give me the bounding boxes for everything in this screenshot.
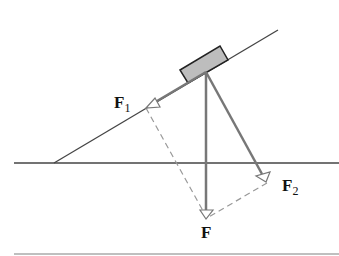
label-f1-sub: 1 [124, 101, 130, 115]
label-f-main: F [201, 223, 211, 242]
label-f2-main: F [282, 176, 292, 195]
vector-f2 [206, 72, 262, 174]
label-f1: F1 [114, 94, 130, 114]
label-f1-main: F [114, 93, 124, 112]
label-f2-sub: 2 [292, 184, 298, 198]
label-f2: F2 [282, 177, 298, 197]
arrowhead-f-icon [200, 210, 213, 219]
block [180, 46, 228, 83]
dashed-f2-to-f [207, 183, 267, 218]
arrowhead-f2-icon [256, 172, 270, 182]
label-f: F [201, 224, 211, 241]
diagram-canvas [0, 0, 339, 256]
vector-f1 [152, 72, 206, 104]
